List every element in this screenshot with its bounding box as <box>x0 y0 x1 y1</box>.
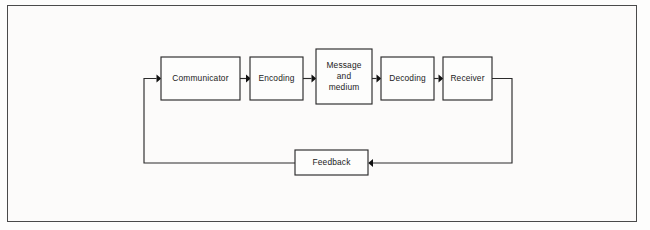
diagram-canvas: Communicator Encoding Message and medium… <box>0 0 650 230</box>
node-box-encoding[interactable] <box>250 57 303 100</box>
node-box-receiver[interactable] <box>443 57 492 100</box>
node-box-decoding[interactable] <box>381 57 434 100</box>
node-box-message-and-medium[interactable] <box>316 49 372 104</box>
diagram-graphics-layer <box>0 0 650 230</box>
arrowhead-into-feedback <box>368 159 373 167</box>
node-box-communicator[interactable] <box>161 57 240 100</box>
node-box-feedback[interactable] <box>295 150 368 175</box>
